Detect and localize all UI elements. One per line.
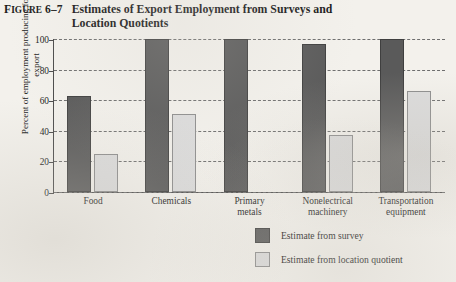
bar-nonelectrical-machinery-location-quotient [329, 135, 353, 192]
legend-label-location-quotient: Estimate from location quotient [281, 254, 403, 265]
bar-transportation-equipment-location-quotient [407, 91, 431, 192]
plot-area: 020406080100 FoodChemicalsPrimarymetalsN… [53, 39, 445, 193]
bar-chemicals-location-quotient [172, 114, 196, 192]
x-axis-tick-label: Transportationequipment [358, 196, 454, 218]
bar-nonelectrical-machinery-survey [302, 44, 326, 192]
legend-item-survey: Estimate from survey [255, 228, 403, 243]
y-axis-tick-label: 40 [40, 127, 49, 137]
bar-transportation-equipment-survey [380, 39, 404, 192]
x-axis-tick-label-line: equipment [358, 207, 454, 218]
y-axis-tick-label: 100 [35, 35, 49, 45]
bar-group-primary-metals: Primarymetals [224, 39, 276, 192]
bar-group-chemicals: Chemicals [145, 39, 197, 192]
legend-swatch-survey [255, 228, 270, 243]
legend-item-location-quotient: Estimate from location quotient [255, 252, 403, 267]
legend-label-survey: Estimate from survey [281, 230, 364, 241]
y-axis-tick-label: 20 [40, 157, 49, 167]
bar-food-location-quotient [94, 154, 118, 192]
bar-primary-metals-survey [224, 39, 248, 192]
y-axis-tick-mark [49, 193, 54, 194]
bar-food-survey [67, 96, 91, 192]
chart-legend: Estimate from survey Estimate from locat… [255, 228, 403, 276]
bar-group-nonelectrical-machinery: Nonelectricalmachinery [302, 39, 354, 192]
bar-group-transportation-equipment: Transportationequipment [380, 39, 432, 192]
y-axis-tick-label: 60 [40, 96, 49, 106]
legend-swatch-location-quotient [255, 252, 270, 267]
bar-chemicals-survey [145, 39, 169, 192]
gridline: 0 [54, 192, 445, 193]
x-axis-tick-label-line: Transportation [358, 196, 454, 207]
y-axis-tick-label: 80 [40, 66, 49, 76]
bar-group-food: Food [67, 39, 119, 192]
bar-group: FoodChemicalsPrimarymetalsNonelectricalm… [54, 39, 445, 192]
